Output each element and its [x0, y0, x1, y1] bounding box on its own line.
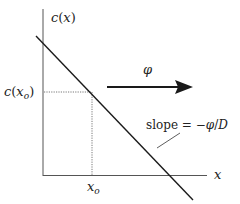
y-axis-label: c(x) — [51, 10, 76, 25]
point-x-label: xo — [87, 179, 100, 196]
slope-label: slope = −φ/D — [146, 118, 228, 132]
slope-leader-line — [157, 133, 180, 148]
flux-label: φ — [143, 62, 153, 77]
concentration-gradient-diagram: c(x) c(xo) xo x φ slope = −φ/D — [0, 0, 240, 204]
point-y-label: c(xo) — [4, 84, 34, 101]
x-axis-label: x — [214, 167, 222, 182]
